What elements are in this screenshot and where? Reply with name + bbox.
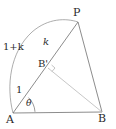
- segment-label-one-plus-k: 1+k: [3, 42, 24, 52]
- vertex-label-b: B: [98, 113, 106, 124]
- segment-AB: [13, 112, 102, 113]
- segment-PB: [78, 22, 102, 112]
- vertex-label-a: A: [6, 114, 14, 125]
- right-angle-marker-icon: [52, 65, 55, 71]
- segment-label-one: 1: [16, 85, 22, 95]
- segment-label-k: k: [43, 37, 49, 47]
- segment-Bprime-B: [48, 68, 102, 112]
- vertex-label-p: P: [73, 7, 80, 18]
- angle-label-theta: θ: [26, 99, 31, 108]
- geometry-figure: P A B B' k 1+k 1 θ: [0, 0, 116, 129]
- vertex-label-b-prime: B': [38, 59, 48, 69]
- figure-canvas: [0, 0, 116, 129]
